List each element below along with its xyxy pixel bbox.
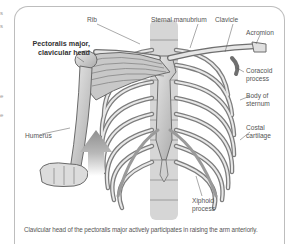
label-costal-cartilage: Costal cartilage xyxy=(246,124,271,139)
label-body-of-sternum: Body of sternum xyxy=(246,92,270,107)
label-xiphoid-line2: process xyxy=(192,205,215,213)
label-coracoid-line1: Coracoid xyxy=(246,67,272,75)
label-coracoid-line2: process xyxy=(246,75,272,83)
label-rib: Rib xyxy=(87,16,97,24)
label-pectoralis-line2: clavicular head xyxy=(30,49,90,58)
label-xiphoid-process: Xiphoid process xyxy=(192,197,215,212)
label-costal-line1: Costal xyxy=(246,124,271,132)
label-sternal-manubrium: Sternal manubrium xyxy=(151,16,207,24)
label-clavicle: Clavicle xyxy=(215,16,238,24)
label-body-sternum-line1: Body of xyxy=(246,92,270,100)
figure-caption: Clavicular head of the pectoralis major … xyxy=(24,226,258,233)
label-pectoralis-major: Pectoralis major, clavicular head xyxy=(30,40,90,57)
label-acromion: Acromion xyxy=(246,29,274,37)
label-xiphoid-line1: Xiphoid xyxy=(192,197,215,205)
ribs-right-highlight xyxy=(176,50,234,208)
label-humerus: Humerus xyxy=(25,132,52,140)
label-costal-line2: cartilage xyxy=(246,132,271,140)
label-body-sternum-line2: sternum xyxy=(246,100,270,108)
label-coracoid-process: Coracoid process xyxy=(246,67,272,82)
